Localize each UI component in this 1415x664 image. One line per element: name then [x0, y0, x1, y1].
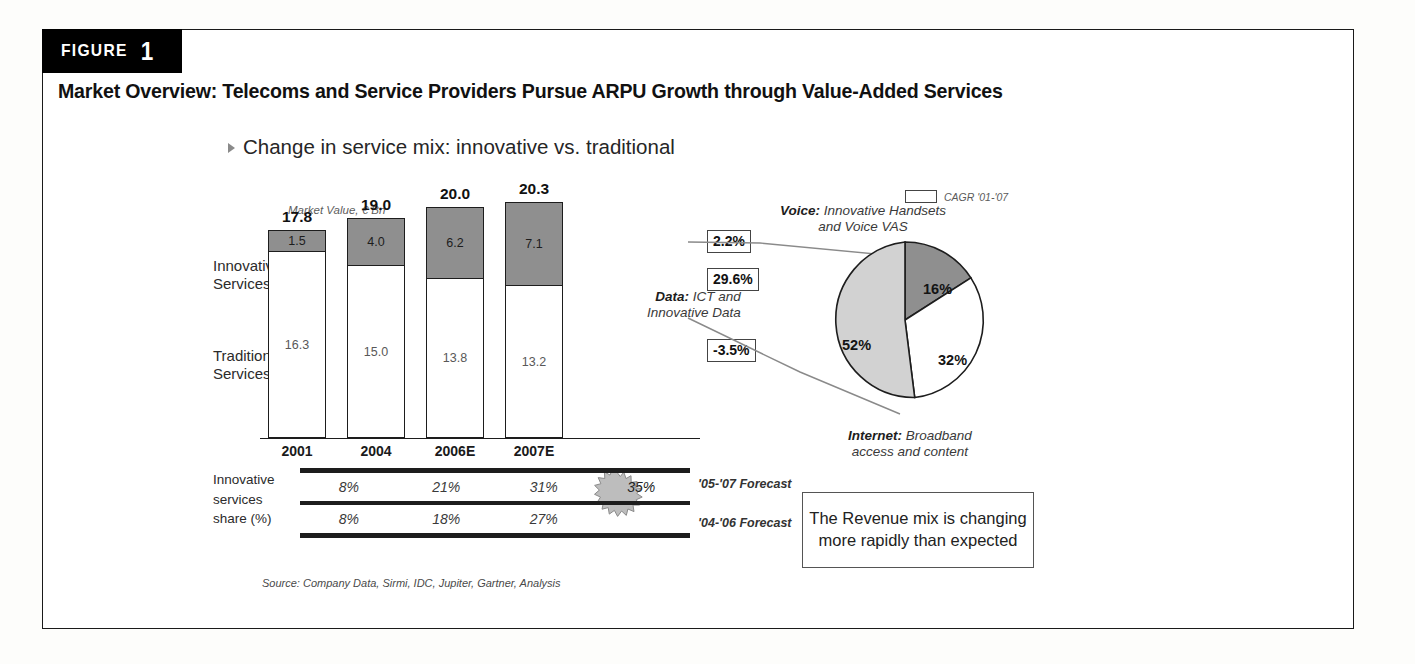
- bar-total-label-2001: 17.8: [268, 208, 326, 226]
- share-table-row-header: Innovative services share (%): [213, 470, 275, 529]
- share-2006E-forecast-0406: 27%: [495, 505, 593, 533]
- leader-line-bottom: [688, 318, 900, 414]
- x-tick-2001: 2001: [262, 443, 332, 459]
- chart-overlay-vectors: [0, 0, 1415, 664]
- pie-value-voice: 16%: [923, 281, 952, 297]
- pie-annotation-data-line2: Innovative Data: [647, 305, 741, 321]
- forecast-label-0406: '04-'06 Forecast: [698, 516, 792, 530]
- share-2006E-forecast-0507: 31%: [495, 473, 593, 501]
- share-2007E-forecast-0507: 35%: [593, 473, 691, 501]
- cagr-legend-label: CAGR '01-'07: [944, 191, 1008, 203]
- x-axis-line: [260, 438, 700, 439]
- source-note: Source: Company Data, Sirmi, IDC, Jupite…: [262, 577, 561, 589]
- table-row: 8% 21% 31% 35%: [300, 473, 690, 501]
- pie-annotation-voice-line2: and Voice VAS: [780, 219, 946, 235]
- pie-annotation-data-bold: Data:: [655, 289, 689, 304]
- x-tick-2004: 2004: [341, 443, 411, 459]
- bar-column-2001: 17.81.516.3: [268, 230, 326, 438]
- cagr-legend: CAGR '01-'07: [905, 190, 1008, 203]
- pie-annotation-data-rest: ICT and: [689, 289, 741, 304]
- pie-annotation-voice-rest: Innovative Handsets: [820, 203, 946, 218]
- share-table-grid: 8% 21% 31% 35% 8% 18% 27%: [300, 468, 690, 538]
- share-2007E-forecast-0406: [593, 505, 691, 533]
- bar-column-2007E: 20.37.113.2: [505, 202, 563, 438]
- bar-total-label-2004: 19.0: [347, 196, 405, 214]
- pie-value-data: 52%: [842, 337, 871, 353]
- bar-segment-innovative-2007E: 7.1: [505, 202, 563, 286]
- share-label-line1: Innovative: [213, 470, 275, 490]
- share-2001-forecast-0507: 8%: [300, 473, 398, 501]
- bar-column-2006E: 20.06.213.8: [426, 207, 484, 438]
- bar-column-2004: 19.04.015.0: [347, 218, 405, 438]
- callout-revenue-mix: The Revenue mix is changing more rapidly…: [802, 492, 1034, 568]
- bar-total-label-2007E: 20.3: [505, 180, 563, 198]
- share-table-rule-bottom: [300, 533, 690, 538]
- forecast-label-0507: '05-'07 Forecast: [698, 477, 792, 491]
- figure-page: FIGURE 1 Market Overview: Telecoms and S…: [0, 0, 1415, 664]
- x-tick-2007E: 2007E: [499, 443, 569, 459]
- bar-segment-traditional-2006E: 13.8: [426, 279, 484, 438]
- pie-annotation-internet-line2: access and content: [848, 444, 972, 460]
- pie-annotation-internet: Internet: Broadband access and content: [848, 428, 972, 461]
- share-table: 8% 21% 31% 35% 8% 18% 27%: [300, 468, 690, 538]
- pie-annotation-internet-rest: Broadband: [902, 428, 972, 443]
- pie-chart: [836, 242, 984, 398]
- x-tick-2006E: 2006E: [420, 443, 490, 459]
- bar-segment-traditional-2007E: 13.2: [505, 286, 563, 438]
- cagr-box-traditional: -3.5%: [707, 339, 756, 362]
- bar-segment-innovative-2001: 1.5: [268, 230, 326, 252]
- chart-canvas: Market Value, € Bn CAGR '01-'07 Innovati…: [0, 0, 1415, 664]
- bar-total-label-2006E: 20.0: [426, 185, 484, 203]
- pie-value-internet: 32%: [938, 352, 967, 368]
- pie-annotation-voice-bold: Voice:: [780, 203, 820, 218]
- stacked-bar-group: 17.81.516.319.04.015.020.06.213.820.37.1…: [268, 188, 688, 438]
- table-row: 8% 18% 27%: [300, 505, 690, 533]
- bar-segment-traditional-2001: 16.3: [268, 252, 326, 438]
- share-label-line3: share (%): [213, 509, 275, 529]
- pie-annotation-internet-bold: Internet:: [848, 428, 902, 443]
- share-2007E-value: 35%: [627, 479, 655, 495]
- rectangle-outline-icon: [905, 190, 937, 203]
- share-label-line2: services: [213, 490, 275, 510]
- pie-annotation-data: Data: ICT and Innovative Data: [647, 289, 741, 322]
- cagr-box-total: 2.2%: [707, 230, 751, 253]
- bar-segment-innovative-2004: 4.0: [347, 218, 405, 266]
- bar-segment-innovative-2006E: 6.2: [426, 207, 484, 279]
- share-2004-forecast-0406: 18%: [398, 505, 496, 533]
- pie-slice-data: [836, 242, 915, 398]
- bar-segment-traditional-2004: 15.0: [347, 266, 405, 438]
- cagr-box-innovative: 29.6%: [707, 268, 759, 291]
- share-2001-forecast-0406: 8%: [300, 505, 398, 533]
- pie-annotation-voice: Voice: Innovative Handsets and Voice VAS: [780, 203, 946, 236]
- share-2004-forecast-0507: 21%: [398, 473, 496, 501]
